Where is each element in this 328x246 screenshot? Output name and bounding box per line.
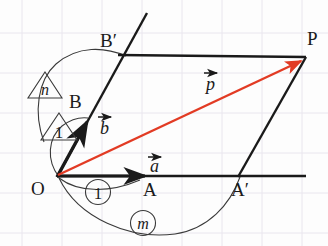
badge-scale-1-vertical: 1: [41, 113, 77, 142]
vector-label-a: a: [148, 156, 161, 176]
badge-scale-m-text: m: [137, 215, 149, 232]
point-label-P: P: [307, 28, 318, 49]
background-grid: [0, 0, 328, 246]
badge-scale-n: n: [28, 72, 62, 98]
vector-label-p-text: p: [204, 74, 215, 94]
badge-scale-1-horizontal: 1: [86, 180, 111, 205]
vector-p-arrow: [58, 61, 301, 175]
badge-scale-1-horizontal-text: 1: [94, 184, 103, 203]
point-label-A-prime: A′: [231, 179, 249, 200]
badge-scale-1-vertical-text: 1: [55, 123, 64, 142]
point-label-B: B: [69, 91, 82, 112]
edge-bprime-p: [118, 55, 306, 57]
vector-label-b-text: b: [100, 118, 109, 138]
badge-scale-m: m: [131, 211, 156, 236]
point-label-O: O: [31, 178, 45, 199]
vector-label-b: b: [98, 117, 111, 138]
point-label-A: A: [143, 179, 157, 200]
vector-figure: O A A′ B B′ P a b p n 1 1: [0, 0, 328, 246]
badge-scale-n-text: n: [41, 81, 49, 98]
vector-label-a-text: a: [150, 156, 159, 176]
point-label-B-prime: B′: [100, 30, 117, 51]
figure-canvas: O A A′ B B′ P a b p n 1 1: [0, 0, 328, 246]
vector-label-p: p: [204, 73, 217, 94]
